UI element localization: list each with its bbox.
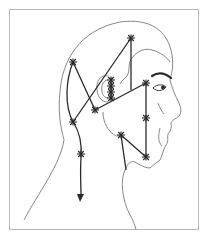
asterisk-icon xyxy=(107,95,115,102)
asterisk-icon xyxy=(107,89,115,96)
asterisk-icon xyxy=(142,154,150,161)
pupil xyxy=(161,86,165,90)
asterisk-icon xyxy=(77,151,85,158)
asterisk-icon xyxy=(127,35,135,42)
diagram-canvas: Head and neck trigger point referral dia… xyxy=(0,0,209,241)
asterisk-icon xyxy=(107,77,115,84)
asterisk-icon xyxy=(91,107,99,114)
asterisk-icon xyxy=(117,132,125,139)
asterisk-icon xyxy=(142,115,150,122)
asterisk-icon xyxy=(69,119,77,126)
asterisk-icon xyxy=(142,80,150,87)
head-neck-diagram xyxy=(0,0,209,241)
asterisk-icon xyxy=(69,59,77,66)
asterisk-icon xyxy=(107,83,115,90)
